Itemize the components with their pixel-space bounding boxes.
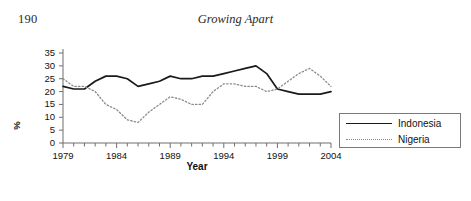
x-tick-label: 1984 bbox=[99, 150, 135, 161]
line-chart-figure: % Year 05101520253035 197919841989199419… bbox=[0, 36, 471, 201]
x-tick-label: 1979 bbox=[45, 150, 81, 161]
legend-line-solid-icon bbox=[346, 118, 392, 128]
y-tick-label: 5 bbox=[33, 124, 55, 135]
legend-line-dotted-icon bbox=[346, 134, 392, 144]
y-tick-label: 30 bbox=[33, 60, 55, 71]
x-tick-label: 1999 bbox=[259, 150, 295, 161]
legend-label-nigeria: Nigeria bbox=[398, 134, 430, 145]
running-head: Growing Apart bbox=[0, 12, 471, 27]
legend-label-indonesia: Indonesia bbox=[398, 118, 441, 129]
chart-legend: Indonesia Nigeria bbox=[339, 113, 461, 148]
y-tick-label: 20 bbox=[33, 86, 55, 97]
y-tick-label: 15 bbox=[33, 98, 55, 109]
y-axis-title: % bbox=[11, 121, 22, 129]
x-tick-label: 1989 bbox=[152, 150, 188, 161]
x-axis-title: Year bbox=[63, 161, 331, 172]
x-tick-label: 2004 bbox=[313, 150, 349, 161]
x-tick-label: 1994 bbox=[206, 150, 242, 161]
y-tick-label: 25 bbox=[33, 73, 55, 84]
y-tick-label: 35 bbox=[33, 47, 55, 58]
legend-item-nigeria: Nigeria bbox=[340, 131, 462, 147]
y-tick-label: 0 bbox=[33, 137, 55, 148]
legend-item-indonesia: Indonesia bbox=[340, 115, 462, 131]
y-tick-label: 10 bbox=[33, 111, 55, 122]
book-page: 190 Growing Apart % Year 05101520253035 … bbox=[0, 0, 471, 201]
